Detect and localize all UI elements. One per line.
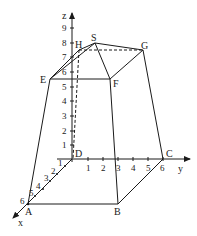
z-tick: 8 (62, 38, 67, 48)
y-tick: 1 (86, 163, 91, 173)
z-tick: 6 (62, 67, 67, 77)
point-label-d: D (75, 148, 82, 159)
point-label-h: H (75, 39, 82, 50)
z-tick: 2 (62, 126, 67, 136)
y-tick: 3 (116, 163, 121, 173)
point-label-c: C (166, 148, 173, 159)
point-label-b: B (114, 206, 121, 217)
z-tick: 5 (62, 82, 67, 92)
hidden-edges (73, 50, 143, 159)
z-tick: 1 (62, 140, 67, 150)
y-axis-label: y (178, 163, 183, 174)
x-tick: 1 (58, 158, 63, 168)
z-tick: 9 (62, 23, 67, 33)
y-tick: 5 (146, 163, 151, 173)
point-label-f: F (113, 78, 119, 89)
z-tick: 7 (62, 52, 67, 62)
point-label-g: G (141, 40, 148, 51)
point-label-s: S (91, 32, 97, 43)
x-tick: 4 (36, 181, 41, 191)
y-tick: 6 (160, 163, 165, 173)
x-tick: 6 (20, 196, 25, 206)
point-label-e: E (40, 74, 46, 85)
z-axis-label: z (62, 10, 67, 21)
coordinate-diagram: z y x 1 2 3 4 5 6 7 8 9 1 2 3 4 5 6 1 2 … (0, 0, 197, 236)
z-tick: 3 (62, 111, 67, 121)
x-tick: 3 (44, 173, 49, 183)
y-tick: 4 (131, 163, 136, 173)
x-tick: 2 (51, 166, 56, 176)
x-axis-label: x (18, 217, 23, 228)
point-label-a: A (25, 206, 33, 217)
y-tick: 2 (101, 163, 106, 173)
x-tick: 5 (29, 188, 34, 198)
z-tick: 4 (62, 96, 67, 106)
